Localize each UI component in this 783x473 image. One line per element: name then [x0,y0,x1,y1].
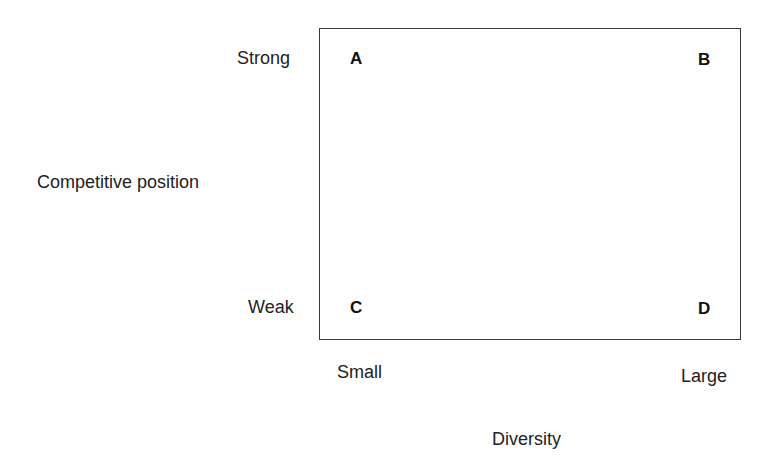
x-axis-right-label: Large [681,366,727,386]
y-axis-title: Competitive position [37,172,199,192]
quadrant-a-label: A [350,50,362,68]
quadrant-d-label: D [698,300,710,318]
y-axis-top-label: Strong [237,48,290,68]
matrix-box [319,28,741,340]
y-axis-bottom-label: Weak [248,297,294,317]
quadrant-b-label: B [698,51,710,69]
x-axis-title: Diversity [492,429,561,449]
x-axis-left-label: Small [337,362,382,382]
quadrant-c-label: C [350,299,362,317]
